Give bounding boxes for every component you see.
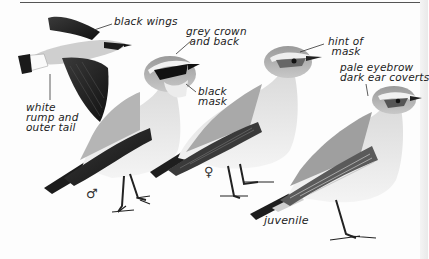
label-black-mask: black mask [198,86,227,106]
female-symbol: ♀ [204,164,214,179]
label-pale-eyebrow-dark-ear-coverts: pale eyebrow dark ear coverts [340,62,429,82]
juvenile-caption: juvenile [264,216,309,226]
label-grey-crown-and-back: grey crown and back [186,26,247,46]
male-bird [44,56,200,212]
label-hint-of-mask: hint of mask [328,36,363,56]
label-black-wings: black wings [114,16,178,26]
male-symbol: ♂ [86,186,98,201]
label-white-rump-and-outer-tail: white rump and outer tail [26,102,79,132]
